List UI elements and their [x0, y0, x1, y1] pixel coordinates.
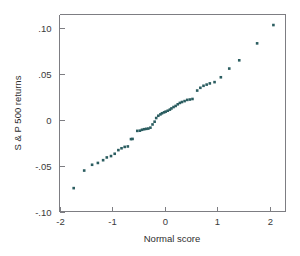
scatter-point: [102, 159, 105, 162]
scatter-points: [72, 24, 274, 190]
scatter-point: [97, 162, 100, 165]
y-axis-title: S & P 500 returns: [12, 75, 23, 150]
scatter-point: [72, 187, 75, 190]
scatter-point: [220, 76, 223, 79]
scatter-point: [256, 42, 259, 45]
y-axis-ticks: .10.050-.05-.10: [35, 23, 64, 218]
scatter-point: [123, 146, 126, 149]
scatter-point: [127, 145, 130, 148]
scatter-point: [106, 156, 109, 159]
scatter-point: [149, 126, 152, 129]
x-axis-ticks: -2-1012: [56, 207, 273, 227]
x-tick-label: 2: [268, 216, 273, 227]
y-tick-label: .10: [38, 23, 51, 34]
y-tick-label: .05: [38, 69, 51, 80]
x-tick-label: 0: [163, 216, 168, 227]
x-tick-label: -1: [108, 216, 116, 227]
plot-frame: [60, 15, 286, 212]
scatter-point: [272, 24, 275, 27]
scatter-point: [113, 152, 116, 155]
scatter-point: [83, 169, 86, 172]
scatter-point: [151, 123, 154, 126]
x-tick-label: 1: [215, 216, 220, 227]
scatter-point: [209, 82, 212, 85]
scatter-point: [120, 147, 123, 150]
scatter-point: [183, 100, 186, 103]
scatter-point: [213, 81, 216, 84]
plot-canvas: .10.050-.05-.10 -2-1012 Normal score S &…: [0, 0, 300, 256]
qq-plot-figure: .10.050-.05-.10 -2-1012 Normal score S &…: [0, 0, 300, 256]
scatter-point: [117, 149, 120, 152]
y-tick-label: 0: [46, 115, 51, 126]
scatter-point: [153, 120, 156, 123]
scatter-point: [91, 163, 94, 166]
scatter-point: [238, 59, 241, 62]
scatter-point: [191, 98, 194, 101]
scatter-point: [136, 130, 139, 133]
scatter-point: [189, 98, 192, 101]
scatter-point: [228, 67, 231, 70]
scatter-point: [199, 87, 202, 90]
scatter-point: [181, 101, 184, 104]
scatter-point: [202, 84, 205, 87]
scatter-point: [131, 138, 134, 141]
scatter-point: [110, 155, 113, 158]
scatter-point: [205, 83, 208, 86]
x-tick-label: -2: [56, 216, 64, 227]
y-tick-label: -.10: [35, 207, 51, 218]
x-axis-title: Normal score: [144, 233, 201, 244]
y-tick-label: -.05: [35, 161, 51, 172]
scatter-point: [155, 117, 158, 120]
scatter-point: [196, 89, 199, 92]
scatter-point: [186, 99, 189, 102]
